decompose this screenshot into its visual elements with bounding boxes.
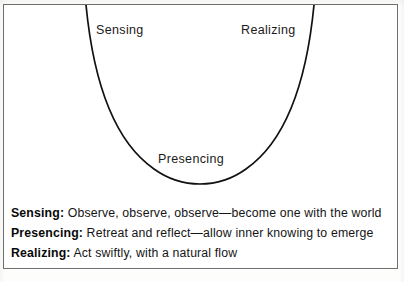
- label-realizing: Realizing: [241, 23, 296, 37]
- label-sensing: Sensing: [96, 23, 144, 37]
- label-presencing: Presencing: [158, 152, 224, 166]
- diagram-page: Sensing Realizing Presencing Sensing: Ob…: [0, 0, 404, 282]
- legend-description-realizing: Act swiftly, with a natural flow: [71, 246, 238, 260]
- diagram-frame: Sensing Realizing Presencing Sensing: Ob…: [3, 4, 398, 269]
- legend-term-sensing: Sensing:: [11, 206, 64, 220]
- legend-description-presencing: Retreat and reflect—allow inner knowing …: [83, 226, 373, 240]
- legend-item-sensing: Sensing: Observe, observe, observe—becom…: [11, 203, 395, 223]
- legend-item-presencing: Presencing: Retreat and reflect—allow in…: [11, 223, 395, 243]
- u-curve-diagram: Sensing Realizing Presencing: [4, 5, 397, 195]
- legend-term-presencing: Presencing:: [11, 226, 83, 240]
- legend-item-realizing: Realizing: Act swiftly, with a natural f…: [11, 243, 395, 263]
- legend-term-realizing: Realizing:: [11, 246, 71, 260]
- legend-block: Sensing: Observe, observe, observe—becom…: [11, 203, 395, 263]
- u-curve-svg: [4, 5, 397, 195]
- legend-description-sensing: Observe, observe, observe—become one wit…: [64, 206, 381, 220]
